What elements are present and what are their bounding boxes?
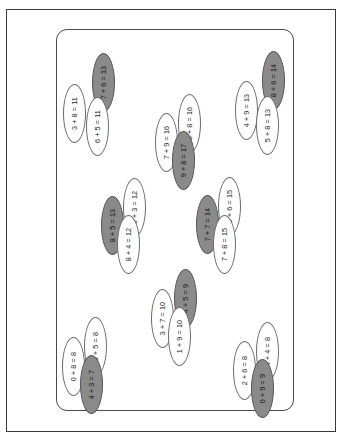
- equation-ellipse[interactable]: 1 + 9 = 10: [168, 307, 191, 366]
- equation-label: 4 + 3 = 7: [88, 370, 95, 399]
- equation-ellipse[interactable]: 6 + 5 = 11: [86, 97, 109, 156]
- equation-label: 5 + 8 = 13: [264, 109, 271, 142]
- equation-label: 7 + 7 = 14: [204, 208, 211, 241]
- equation-label: 8 + 4 = 12: [125, 228, 132, 261]
- equation-label: 0 + 9 = 9: [259, 374, 266, 403]
- equation-ellipse[interactable]: 9 + 8 = 17: [172, 131, 195, 190]
- equation-ellipse[interactable]: 0 + 9 = 9: [251, 359, 274, 418]
- equation-ellipse[interactable]: 5 + 8 = 13: [256, 96, 279, 155]
- equation-label: 1 + 9 = 10: [176, 320, 183, 353]
- equation-label: 8 + 5 = 13: [109, 209, 116, 242]
- equation-ellipse[interactable]: 4 + 3 = 7: [80, 355, 103, 414]
- equation-label: 9 + 8 = 17: [180, 144, 187, 177]
- equation-label: 7 + 8 = 15: [221, 228, 228, 261]
- equation-label: 7 + 9 = 16: [163, 126, 170, 159]
- equation-label: 6 + 5 = 11: [94, 110, 101, 143]
- equation-label: 0 + 8 = 8: [70, 352, 77, 381]
- diagram-canvas: 3 + 8 = 117 + 6 = 136 + 5 = 114 + 9 = 13…: [0, 0, 343, 442]
- equation-ellipse[interactable]: 3 + 8 = 11: [63, 84, 86, 143]
- equation-ellipse[interactable]: 7 + 8 = 15: [213, 215, 236, 274]
- equation-label: 8 + 6 = 14: [270, 64, 277, 97]
- equation-label: 3 + 8 = 11: [71, 97, 78, 130]
- equation-ellipse[interactable]: 8 + 4 = 12: [117, 215, 140, 274]
- equation-label: 7 + 6 = 13: [100, 66, 107, 99]
- equation-label: 2 + 6 = 8: [241, 356, 248, 385]
- equation-label: 3 + 7 = 10: [159, 302, 166, 335]
- equation-ellipse[interactable]: 4 + 9 = 13: [235, 81, 258, 140]
- equation-label: 4 + 9 = 13: [243, 94, 250, 127]
